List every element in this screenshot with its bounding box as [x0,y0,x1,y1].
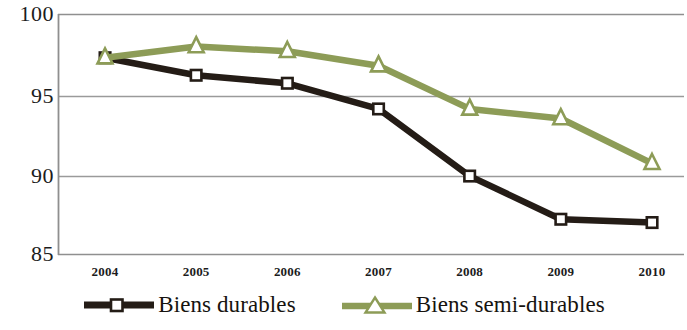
data-point-marker [647,217,658,228]
legend-entry-biens-durables: Biens durables [82,292,295,317]
series-layer [98,37,660,228]
data-point-marker [373,104,384,115]
x-axis-tick-label: 2008 [456,264,483,280]
x-axis-tick-label: 2005 [183,264,210,280]
series-1 [100,53,658,228]
data-point-marker [556,214,567,225]
x-axis-tick-label: 2004 [92,264,119,280]
plot-area: 100 95 90 85 [0,0,687,262]
x-axis-tick-label: 2009 [547,264,574,280]
legend-marker-square-icon [82,294,156,316]
plot-canvas [0,0,687,262]
x-axis-tick-label: 2010 [639,264,666,280]
data-point-marker [464,171,475,182]
x-axis-tick-label: 2007 [365,264,392,280]
legend-marker-triangle-icon [340,294,414,316]
data-point-marker [282,78,293,89]
legend-entry-biens-semi-durables: Biens semi-durables [340,292,605,317]
legend-label: Biens durables [158,292,295,317]
line-chart-figure: 100 95 90 85 200420052006200720082009201… [0,0,687,330]
legend-label: Biens semi-durables [416,292,605,317]
x-axis-tick-label: 2006 [274,264,301,280]
series-line [105,58,652,223]
chart-legend: Biens durables Biens semi-durables [0,292,687,330]
data-point-marker [191,70,202,81]
x-axis-tick-labels: 2004200520062007200820092010 [0,262,687,288]
